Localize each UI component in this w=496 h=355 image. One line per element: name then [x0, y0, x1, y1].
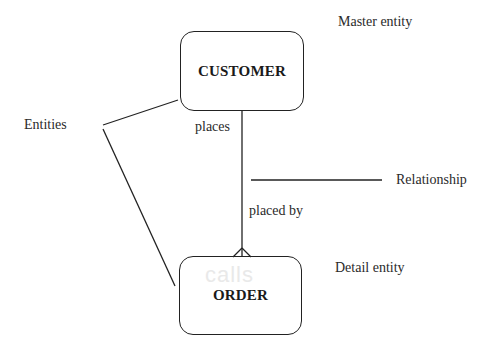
master-entity-label: Master entity [338, 14, 412, 30]
entities-label: Entities [24, 117, 67, 133]
detail-entity-label: Detail entity [335, 260, 405, 276]
entities-pointer-customer [103, 100, 178, 125]
entity-order-name: ORDER [213, 287, 268, 304]
placed-by-label: placed by [249, 203, 303, 219]
entity-customer[interactable]: CUSTOMER [180, 31, 304, 111]
er-diagram: CUSTOMER calls ORDER Master entity Entit… [0, 0, 496, 355]
entities-pointer-order [103, 129, 175, 286]
entity-order[interactable]: ORDER [179, 256, 302, 335]
places-label: places [195, 119, 230, 135]
relationship-label: Relationship [396, 172, 467, 188]
entity-customer-name: CUSTOMER [198, 63, 286, 80]
